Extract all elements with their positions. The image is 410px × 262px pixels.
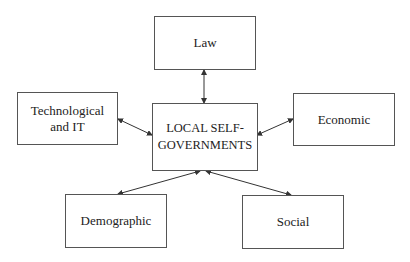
edge-center-technological	[118, 119, 152, 135]
node-economic: Economic	[293, 93, 395, 146]
node-law-label: Law	[193, 35, 216, 51]
node-social-label: Social	[277, 214, 310, 230]
node-social: Social	[242, 195, 344, 249]
node-local-self-governments: LOCAL SELF- GOVERNMENTS	[152, 103, 258, 171]
node-demographic: Demographic	[65, 194, 167, 248]
node-demographic-label: Demographic	[81, 213, 152, 229]
node-economic-label: Economic	[318, 112, 371, 128]
node-center-label: LOCAL SELF- GOVERNMENTS	[158, 120, 252, 154]
edge-center-economic	[257, 119, 293, 135]
node-law: Law	[154, 16, 256, 70]
node-technological: Technological and IT	[17, 92, 118, 145]
edge-center-demographic	[118, 171, 200, 194]
node-technological-label: Technological and IT	[31, 103, 104, 135]
edge-center-social	[206, 171, 291, 195]
